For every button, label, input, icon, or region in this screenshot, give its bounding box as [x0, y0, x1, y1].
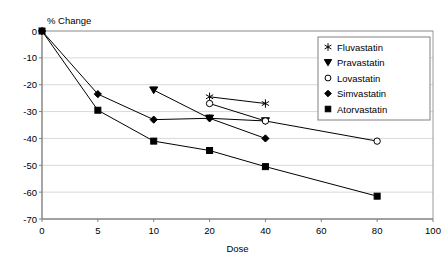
- marker-square: [39, 28, 45, 34]
- y-tick-label: 0: [32, 26, 37, 37]
- chart-canvas: 0-10-20-30-40-50-60-70051020406080100% C…: [0, 0, 442, 275]
- x-tick-label: 60: [316, 225, 327, 236]
- marker-diamond: [150, 116, 157, 123]
- marker-square: [262, 164, 268, 170]
- marker-square: [95, 107, 101, 113]
- x-tick-label: 40: [260, 225, 271, 236]
- marker-open-circle: [325, 75, 331, 81]
- marker-square: [374, 193, 380, 199]
- y-tick-label: -10: [23, 52, 37, 63]
- x-axis-ticks: 051020406080100: [39, 219, 441, 236]
- marker-open-circle: [206, 100, 212, 106]
- marker-open-circle: [262, 118, 268, 124]
- legend-label: Simvastatin: [337, 88, 386, 99]
- y-tick-label: -30: [23, 106, 37, 117]
- legend-label: Pravastatin: [337, 57, 385, 68]
- x-tick-label: 5: [95, 225, 100, 236]
- legend-label: Atorvastatin: [337, 104, 387, 115]
- legend-label: Fluvastatin: [337, 42, 383, 53]
- y-tick-label: -70: [23, 214, 37, 225]
- x-tick-label: 0: [39, 225, 44, 236]
- marker-square: [325, 106, 331, 112]
- y-axis-ticks: 0-10-20-30-40-50-60-70: [23, 26, 42, 225]
- y-tick-label: -50: [23, 160, 37, 171]
- y-axis-title: % Change: [47, 15, 91, 26]
- marker-diamond: [262, 135, 269, 142]
- y-tick-label: -40: [23, 133, 37, 144]
- x-tick-label: 80: [372, 225, 383, 236]
- marker-open-circle: [374, 138, 380, 144]
- statin-dose-response-chart: 0-10-20-30-40-50-60-70051020406080100% C…: [0, 0, 442, 275]
- legend-label: Lovastatin: [337, 73, 380, 84]
- x-axis-title: Dose: [226, 243, 248, 254]
- x-tick-label: 20: [204, 225, 215, 236]
- legend: FluvastatinPravastatinLovastatinSimvasta…: [318, 37, 430, 120]
- marker-triangle-down: [150, 87, 158, 94]
- marker-square: [151, 138, 157, 144]
- x-tick-label: 10: [148, 225, 159, 236]
- y-tick-label: -60: [23, 187, 37, 198]
- marker-square: [207, 148, 213, 154]
- series-line: [210, 97, 266, 104]
- y-tick-label: -20: [23, 79, 37, 90]
- x-tick-label: 100: [425, 225, 441, 236]
